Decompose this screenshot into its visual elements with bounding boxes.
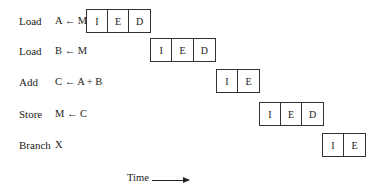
stage-cell: E (108, 10, 129, 32)
stage-cell: D (194, 39, 215, 61)
stage-cell: I (217, 70, 238, 92)
stage-cell: D (129, 10, 150, 32)
instr-label-4: X (55, 139, 63, 151)
instr-label-2: C ← A + B (55, 76, 102, 88)
stage-cell: D (302, 103, 323, 125)
stage-cell: I (87, 10, 108, 32)
stage-group-2: I E (216, 69, 260, 93)
stage-cell: I (151, 39, 172, 61)
stage-group-4: I E (322, 133, 366, 157)
instr-label-1: B ← M (55, 45, 87, 57)
stage-group-1: I E D (150, 38, 216, 62)
stage-cell: I (323, 134, 344, 156)
time-axis-label: Time (127, 172, 149, 183)
op-label-3: Store (19, 108, 42, 120)
stage-cell: E (238, 70, 259, 92)
stage-cell: E (281, 103, 302, 125)
instr-label-3: M ← C (55, 108, 87, 120)
stage-cell: E (172, 39, 193, 61)
op-label-0: Load (19, 15, 42, 27)
right-arrow-icon (152, 180, 189, 181)
op-label-1: Load (19, 45, 42, 57)
stage-cell: E (344, 134, 365, 156)
op-label-4: Branch (19, 139, 51, 151)
stage-group-3: I E D (259, 102, 324, 126)
stage-cell: I (260, 103, 281, 125)
stage-group-0: I E D (86, 9, 151, 33)
instr-label-0: A ← M (55, 15, 87, 27)
op-label-2: Add (19, 76, 38, 88)
